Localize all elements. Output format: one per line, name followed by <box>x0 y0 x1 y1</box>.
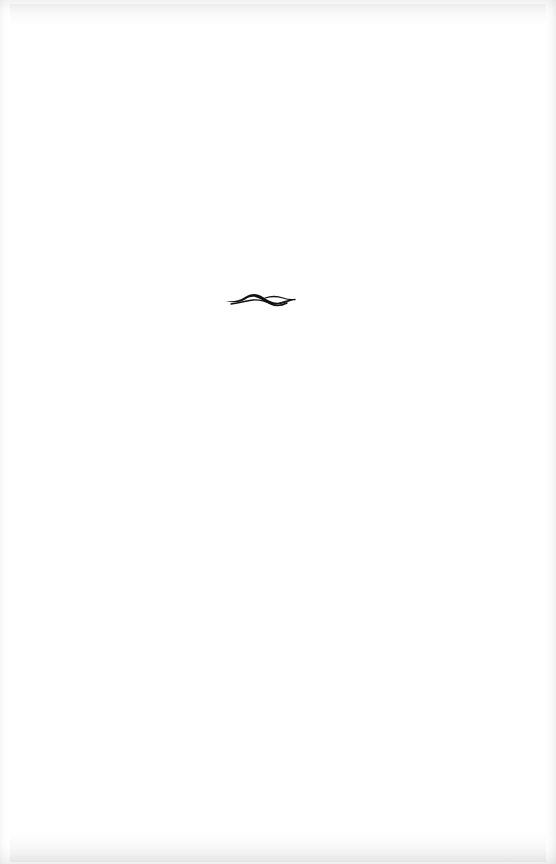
bleed-through-top <box>10 4 546 26</box>
bleed-through-bottom <box>10 832 546 862</box>
wave-flourish-icon <box>223 289 298 309</box>
blank-page <box>0 0 556 864</box>
